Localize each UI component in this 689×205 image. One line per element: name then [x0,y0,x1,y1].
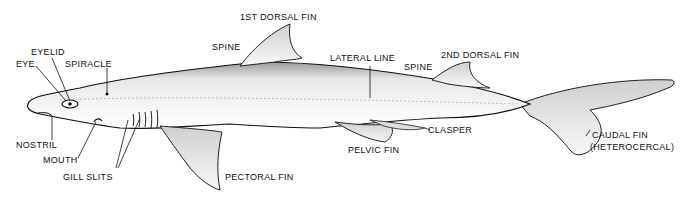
label-pelvic-fin: PELVIC FIN [348,145,399,155]
first-dorsal-fin-shape [240,24,302,66]
label-caudal-fin: CAUDAL FIN [592,130,648,140]
label-gill-slits: GILL SLITS [63,172,113,182]
label-lateral-line: LATERAL LINE [330,53,395,63]
label-nostril: NOSTRIL [16,140,57,150]
label-first-dorsal-fin: 1ST DORSAL FIN [240,12,317,22]
label-spine-rear: SPINE [404,62,433,72]
label-clasper: CLASPER [428,125,472,135]
label-eye: EYE [16,59,35,69]
shark-anatomy-diagram: 1ST DORSAL FIN SPINE EYELID EYE SPIRACLE… [0,0,689,205]
label-spiracle: SPIRACLE [65,59,112,69]
label-second-dorsal-fin: 2ND DORSAL FIN [441,50,519,60]
label-caudal-fin-type: (HETEROCERCAL) [590,142,674,152]
pectoral-fin-shape [160,126,222,190]
label-spine-front: SPINE [212,42,241,52]
label-pectoral-fin: PECTORAL FIN [225,172,294,182]
label-eyelid: EYELID [31,47,65,57]
label-mouth: MOUTH [43,155,78,165]
